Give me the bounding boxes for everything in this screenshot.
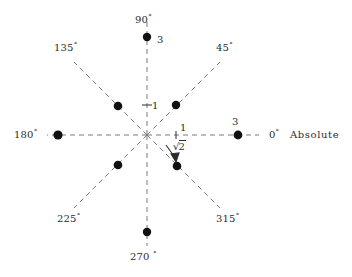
value-label-vertical-one: 1 — [152, 100, 159, 111]
ray-135deg — [74, 62, 147, 135]
ray-225deg — [74, 135, 147, 208]
data-point-45deg — [172, 101, 180, 109]
data-point-135deg — [114, 102, 123, 111]
sqrt2-arrow-head — [171, 153, 179, 162]
value-label-right-radius: 3 — [232, 116, 239, 127]
angle-label-315deg: 315° — [216, 213, 239, 224]
data-point-225deg — [114, 161, 123, 170]
polar-diagram-figure: 0° 45° 90° 135° 180° 225° 270 ° 315° Abs… — [0, 0, 352, 277]
value-label-horizontal-one: 1 — [180, 122, 187, 133]
angle-label-180deg: 180° — [14, 129, 37, 140]
angle-label-225deg: 225° — [57, 213, 80, 224]
radicand: 2 — [179, 140, 187, 152]
sqrt2-label: √2 — [173, 141, 186, 152]
angle-label-270deg: 270 ° — [130, 251, 157, 262]
data-point-0deg — [234, 131, 243, 140]
angle-label-90deg: 90° — [135, 14, 152, 25]
data-point-315deg — [173, 162, 182, 171]
value-label-top-radius: 3 — [157, 34, 164, 45]
angle-label-45deg: 45° — [216, 42, 233, 53]
data-point-270deg — [143, 228, 151, 236]
angle-label-0deg: 0° — [269, 129, 279, 140]
absolute-axis-label: Absolute — [290, 129, 339, 140]
data-point-90deg — [143, 33, 151, 41]
data-point-180deg — [53, 130, 62, 139]
angle-label-135deg: 135° — [54, 42, 77, 53]
